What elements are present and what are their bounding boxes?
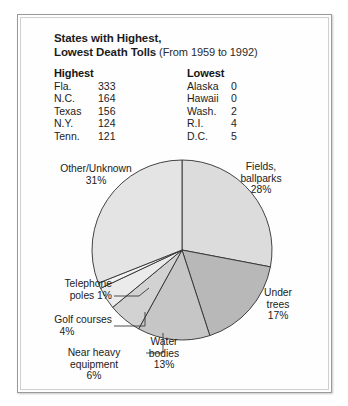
- pie-slice-other-unknown: [92, 160, 182, 283]
- callout-label-under-trees-line1: Under: [264, 287, 292, 298]
- cell-state: Hawaii: [187, 92, 231, 104]
- cell-state: Fla.: [54, 80, 98, 92]
- table-row: Texas 156: [54, 105, 187, 117]
- cell-state: Tenn.: [54, 130, 98, 142]
- callout-label-telephone-poles-line1: Telephone: [64, 278, 112, 289]
- state-death-toll-table: Highest Fla. 333 N.C. 164 Texas 156 N.Y: [54, 67, 324, 142]
- column-header-lowest: Lowest: [187, 67, 320, 79]
- cell-value: 124: [98, 117, 116, 129]
- cell-value: 156: [98, 105, 116, 117]
- leader-line-golf-courses: [114, 312, 145, 326]
- cell-value: 0: [231, 80, 237, 92]
- callout-label-near-heavy-line2: equipment: [44, 359, 144, 371]
- cell-state: N.C.: [54, 92, 98, 104]
- callout-golf-courses: Golf courses 4%: [22, 314, 112, 337]
- figure-content: States with Highest, Lowest Death Tolls …: [18, 15, 333, 394]
- callout-water-bodies: Water bodies 13%: [124, 336, 204, 371]
- callout-label-telephone-poles-line2: poles 1%: [20, 290, 112, 302]
- title-line-2: Lowest Death Tolls (From 1959 to 1992): [54, 46, 322, 60]
- figure-frame: States with Highest, Lowest Death Tolls …: [17, 14, 332, 393]
- title-line-2-text: Lowest Death Tolls: [54, 46, 156, 58]
- cell-value: 0: [231, 92, 237, 104]
- pie-slice-under-trees: [182, 250, 270, 336]
- leader-line-telephone-poles: [114, 288, 149, 296]
- pie-slice-telephone-poles: [98, 250, 182, 288]
- cell-state: Alaska: [187, 80, 231, 92]
- table-row: Tenn. 121: [54, 130, 187, 142]
- callout-other-unknown: Other/Unknown 31%: [36, 163, 156, 186]
- table-row: N.C. 164: [54, 92, 187, 104]
- table-row: Wash. 2: [187, 105, 320, 117]
- cell-value: 121: [98, 130, 116, 142]
- column-header-highest: Highest: [54, 67, 187, 79]
- pie-slice-near-heavy-equipment: [113, 250, 182, 329]
- table-row: Alaska 0: [187, 80, 320, 92]
- cell-value: 2: [231, 105, 237, 117]
- cell-value: 4: [231, 117, 237, 129]
- callout-pct-water-bodies: 13%: [124, 359, 204, 371]
- cell-state: R.I.: [187, 117, 231, 129]
- pie-slice-golf-courses: [101, 250, 182, 307]
- leader-line-near-heavy-equipment: [146, 333, 163, 353]
- title-block: States with Highest, Lowest Death Tolls …: [54, 32, 322, 59]
- title-line-1: States with Highest,: [54, 32, 322, 46]
- callout-label-other-unknown: Other/Unknown: [60, 163, 132, 174]
- pie-slice-fields-ballparks: [182, 160, 272, 267]
- table-row: R.I. 4: [187, 117, 320, 129]
- callout-pct-near-heavy-equipment: 6%: [44, 370, 144, 382]
- cell-state: N.Y.: [54, 117, 98, 129]
- pie-slice-group: [92, 160, 272, 340]
- cell-state: Texas: [54, 105, 98, 117]
- callout-label-fields-line1: Fields,: [246, 161, 276, 172]
- leader-line-group: [114, 288, 163, 353]
- cell-state: D.C.: [187, 130, 231, 142]
- pie-slice-water-bodies: [139, 250, 210, 340]
- table-row: Fla. 333: [54, 80, 187, 92]
- callout-pct-other-unknown: 31%: [36, 175, 156, 187]
- cell-value: 333: [98, 80, 116, 92]
- callout-label-water-bodies-line1: Water: [150, 336, 177, 347]
- callout-label-fields-line2: ballparks: [222, 173, 300, 185]
- callout-pct-fields-ballparks: 28%: [222, 184, 300, 196]
- callout-pct-under-trees: 17%: [246, 310, 310, 322]
- cell-value: 5: [231, 130, 237, 142]
- callout-near-heavy-equipment: Near heavy equipment 6%: [44, 347, 144, 382]
- callout-fields-ballparks: Fields, ballparks 28%: [222, 161, 300, 196]
- callout-label-under-trees-line2: trees: [246, 299, 310, 311]
- table-row: Hawaii 0: [187, 92, 320, 104]
- cell-state: Wash.: [187, 105, 231, 117]
- callout-label-golf-courses: Golf courses: [54, 314, 112, 325]
- callout-label-water-bodies-line2: bodies: [124, 348, 204, 360]
- table-column-lowest: Lowest Alaska 0 Hawaii 0 Wash. 2 R.I.: [187, 67, 320, 142]
- table-column-highest: Highest Fla. 333 N.C. 164 Texas 156 N.Y: [54, 67, 187, 142]
- callout-telephone-poles: Telephone poles 1%: [20, 278, 112, 301]
- callout-label-near-heavy-line1: Near heavy: [68, 347, 121, 358]
- callout-under-trees: Under trees 17%: [246, 287, 310, 322]
- table-row: D.C. 5: [187, 130, 320, 142]
- title-subtitle-text: (From 1959 to 1992): [159, 46, 257, 58]
- cell-value: 164: [98, 92, 116, 104]
- callout-pct-golf-courses: 4%: [22, 326, 112, 338]
- table-row: N.Y. 124: [54, 117, 187, 129]
